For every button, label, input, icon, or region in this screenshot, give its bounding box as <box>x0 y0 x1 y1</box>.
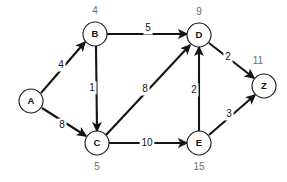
edge-weight-text: 10 <box>141 137 153 148</box>
node-distance-z: 11 <box>253 55 264 66</box>
edge-weight-b-d: 5 <box>143 22 152 35</box>
edge-weight-b-c: 1 <box>87 82 96 95</box>
node-label-e: E <box>196 137 202 148</box>
edge-weight-c-e: 10 <box>140 137 155 150</box>
edge-weight-text: 2 <box>191 84 197 95</box>
edge-weight-text: 8 <box>59 119 65 130</box>
node-label-z: Z <box>261 80 267 91</box>
node-distance-b: 4 <box>92 5 98 16</box>
edge-weight-a-c: 8 <box>57 119 66 132</box>
edge-weight-e-d: 2 <box>189 84 198 97</box>
node-d[interactable]: D9 <box>187 6 211 47</box>
node-e[interactable]: E15 <box>187 131 211 172</box>
node-label-d: D <box>196 29 203 40</box>
node-z[interactable]: Z11 <box>252 55 276 98</box>
edge-weight-text: 3 <box>226 108 232 119</box>
node-label-a: A <box>28 95 35 106</box>
graph-canvas: AB4C5D9E15Z11 4851810223 <box>0 0 287 182</box>
edge-weight-e-z: 3 <box>224 108 233 121</box>
node-c[interactable]: C5 <box>85 131 109 172</box>
node-label-c: C <box>94 137 101 148</box>
edge-weight-text: 1 <box>89 82 95 93</box>
node-distance-c: 5 <box>94 161 100 172</box>
edge-weight-c-d: 8 <box>140 83 149 96</box>
edge-weight-text: 8 <box>142 83 148 94</box>
edge-weight-text: 2 <box>225 51 231 62</box>
graph-diagram: AB4C5D9E15Z11 4851810223 <box>0 0 287 182</box>
edge-weight-text: 4 <box>58 59 64 70</box>
node-distance-e: 15 <box>193 161 205 172</box>
node-a[interactable]: A <box>19 89 43 113</box>
edge-weight-d-z: 2 <box>223 51 232 64</box>
node-distance-d: 9 <box>196 6 202 17</box>
node-b[interactable]: B4 <box>83 5 107 46</box>
node-label-b: B <box>92 28 99 39</box>
edge-weight-text: 5 <box>145 22 151 33</box>
edge-weight-a-b: 4 <box>56 59 65 72</box>
